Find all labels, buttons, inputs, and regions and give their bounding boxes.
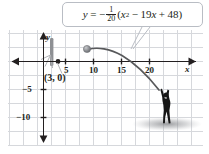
parabola-projectile-figure: 5 10 15 20 −5 −10 x y (3, 0) y = − 1 20 … xyxy=(0,0,209,154)
equation-close-paren: ) xyxy=(179,9,183,20)
ball-icon xyxy=(83,45,90,52)
equation-plus: + xyxy=(159,9,165,20)
equation-minus-2: − xyxy=(132,9,138,20)
y-tick-label-minus10: −10 xyxy=(16,113,30,122)
y-tick-label-minus5: −5 xyxy=(22,85,32,94)
equation-y: y xyxy=(83,9,88,20)
equation-minus: − xyxy=(99,9,105,20)
x-axis xyxy=(12,58,197,66)
y-axis-name: y xyxy=(46,33,50,42)
y-axis xyxy=(40,32,48,143)
ground-shadow xyxy=(132,117,202,131)
equation-text: y = − 1 20 ( x 2 − 19 x + 48 ) xyxy=(83,6,182,24)
fraction-denominator: 20 xyxy=(106,14,116,23)
x-axis-name: x xyxy=(185,65,190,74)
equation-callout: y = − 1 20 ( x 2 − 19 x + 48 ) xyxy=(62,2,203,27)
x-tick-label-15: 15 xyxy=(117,66,126,75)
callout-tail xyxy=(131,27,150,49)
point-annotation-label: (3, 0) xyxy=(44,73,66,83)
equation-equals: = xyxy=(90,9,96,20)
fraction-numerator: 1 xyxy=(108,6,114,14)
equation-x: x xyxy=(121,9,126,20)
equation-x-2: x xyxy=(151,9,156,20)
equation-constant: 48 xyxy=(168,9,179,20)
x-tick-label-10: 10 xyxy=(89,66,98,75)
equation-coefficient: 19 xyxy=(140,9,151,20)
equation-fraction: 1 20 xyxy=(106,6,116,24)
x-tick-label-20: 20 xyxy=(145,66,154,75)
